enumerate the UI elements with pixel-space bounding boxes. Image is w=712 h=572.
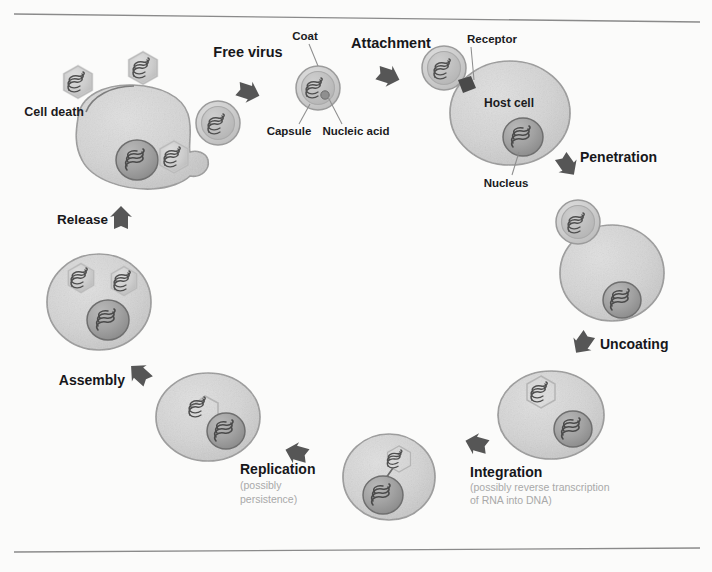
penetration-stage: Penetration <box>552 149 657 181</box>
label-free-virus: Free virus <box>213 44 282 60</box>
label-nucleic-acid: Nucleic acid <box>322 125 389 137</box>
callout-line-coat <box>309 44 318 66</box>
sublabel-replication-line1: (possibly <box>240 479 282 491</box>
assembly-cell-nucleus <box>87 300 129 340</box>
assembly-stage: Assembly <box>59 358 156 390</box>
release-arrow <box>110 206 132 229</box>
label-host-cell: Host cell <box>484 96 534 110</box>
uncoating-cell-membrane <box>498 371 604 459</box>
sublabel-integration-line2: of RNA into DNA) <box>470 494 552 506</box>
assembled-capsid-2 <box>111 267 136 296</box>
label-coat: Coat <box>292 30 318 42</box>
sublabel-integration-line1: (possibly reverse transcription <box>470 481 610 493</box>
uncoating-arrow <box>567 328 598 359</box>
release-stage: Release <box>57 206 132 229</box>
assembly-arrow <box>124 358 156 390</box>
attachment-stage: Attachment <box>351 35 431 90</box>
top-rule <box>14 14 700 22</box>
integration-cell-group <box>343 434 435 520</box>
free-virus-stage: Free virus <box>213 44 282 106</box>
sublabel-replication-line2: persistence) <box>240 493 297 505</box>
uncoating-stage: Uncoating <box>567 328 668 359</box>
label-capsule: Capsule <box>267 125 312 137</box>
integration-cell-nucleus <box>363 476 403 514</box>
callout-line-capsule <box>299 104 310 124</box>
label-release: Release <box>57 212 109 227</box>
label-replication: Replication <box>240 461 315 477</box>
uncoating-cell-group <box>498 371 604 459</box>
budding-capsid <box>160 141 188 173</box>
dying-cell-nucleus <box>116 140 158 180</box>
uncoating-cell-nucleus <box>554 411 592 447</box>
virus-replication-cycle-figure: Cell death Release Free virus Coat Capsu… <box>0 0 712 572</box>
assembly-cell-group <box>47 254 151 350</box>
label-attachment: Attachment <box>351 35 431 51</box>
attachment-arrow <box>374 62 403 90</box>
replication-cell-group <box>156 373 260 461</box>
label-integration: Integration <box>470 464 542 480</box>
free-virus-arrow <box>234 78 263 106</box>
label-nucleus: Nucleus <box>484 177 529 189</box>
integration-arrow <box>462 430 490 457</box>
penetrating-virion <box>556 200 600 244</box>
replication-stage: Replication (possibly persistence) <box>240 439 315 505</box>
bottom-rule <box>14 548 700 552</box>
assembled-capsid-1 <box>68 264 93 293</box>
cell-death-group: Cell death <box>24 52 240 189</box>
penetration-cell-nucleus <box>603 282 641 318</box>
host-cell-nucleus <box>503 118 543 156</box>
replication-cell-nucleus <box>207 413 245 449</box>
label-receptor: Receptor <box>467 33 517 45</box>
free-virion-1 <box>196 101 240 145</box>
released-capsid-2 <box>129 52 157 84</box>
host-cell-group: Receptor Host cell Nucleus <box>422 33 570 189</box>
penetration-arrow <box>552 150 583 181</box>
replication-cell-membrane <box>156 373 260 461</box>
label-cell-death: Cell death <box>24 105 84 119</box>
label-penetration: Penetration <box>580 149 657 165</box>
penetration-cell-group <box>556 200 664 321</box>
label-uncoating: Uncoating <box>600 336 668 352</box>
label-assembly: Assembly <box>59 372 125 388</box>
released-capsid-1 <box>64 66 92 98</box>
